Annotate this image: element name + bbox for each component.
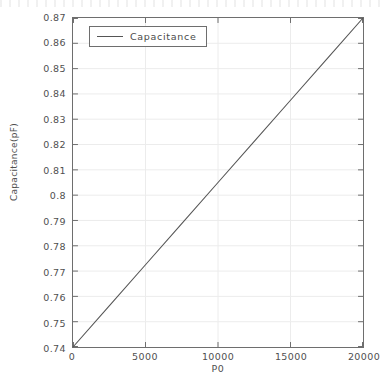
legend-entry-label: Capacitance [130, 31, 197, 42]
x-tick-label: 20000 [348, 351, 380, 362]
y-tick-label: 0.74 [0, 343, 66, 354]
plot-area: Capacitance [72, 17, 364, 348]
data-line-capacitance [73, 18, 363, 347]
y-tick-label: 0.75 [0, 317, 66, 328]
chart-figure: Capacitance(pF) 0.740.750.760.770.780.79… [0, 0, 382, 378]
y-tick-label: 0.81 [0, 164, 66, 175]
data-series-layer [73, 18, 363, 347]
x-tick-label: 5000 [132, 351, 158, 362]
y-tick-label: 0.79 [0, 215, 66, 226]
chart-legend[interactable]: Capacitance [89, 26, 207, 47]
y-tick-label: 0.82 [0, 139, 66, 150]
y-tick-label: 0.83 [0, 113, 66, 124]
x-axis-title: P0 [72, 363, 364, 374]
y-tick-label: 0.8 [0, 190, 66, 201]
legend-line-sample-icon [97, 36, 123, 37]
y-tick-label: 0.87 [0, 12, 66, 23]
y-tick-label: 0.77 [0, 266, 66, 277]
y-tick-label: 0.84 [0, 88, 66, 99]
x-tick-label: 10000 [202, 351, 234, 362]
y-tick-label: 0.85 [0, 62, 66, 73]
x-tick-label: 0 [69, 351, 75, 362]
y-tick-label: 0.86 [0, 37, 66, 48]
x-tick-label: 15000 [275, 351, 307, 362]
y-tick-label: 0.76 [0, 292, 66, 303]
y-tick-label: 0.78 [0, 241, 66, 252]
